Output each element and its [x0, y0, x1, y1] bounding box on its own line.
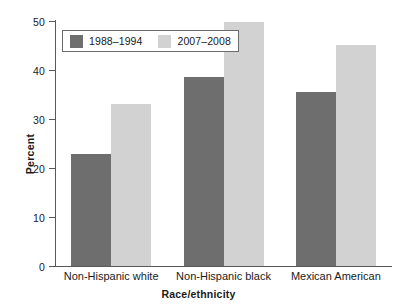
bar: [336, 45, 376, 266]
y-axis-tick-label: 40: [33, 65, 45, 77]
legend-label: 2007–2008: [177, 35, 230, 47]
y-axis-tick-label: 10: [33, 212, 45, 224]
bar-chart: Percent 01020304050 Non-Hispanic whiteNo…: [0, 0, 397, 307]
x-axis-category-label: Mexican American: [291, 270, 381, 282]
bar: [71, 154, 111, 266]
legend-label: 1988–1994: [89, 35, 142, 47]
plot-area: [55, 21, 392, 266]
y-axis-tick-label: 30: [33, 114, 45, 126]
y-axis-tick: 0: [49, 266, 55, 267]
x-axis-category-label: Non-Hispanic black: [176, 270, 271, 282]
y-axis-tick-label: 20: [33, 163, 45, 175]
bar: [184, 77, 224, 266]
x-axis-line: [55, 266, 392, 267]
y-axis-tick-label: 0: [39, 261, 45, 273]
legend-item: 1988–1994: [70, 35, 142, 48]
bar: [111, 104, 151, 266]
x-axis-title: Race/ethnicity: [0, 288, 397, 300]
legend-swatch: [158, 35, 171, 48]
legend-item: 2007–2008: [158, 35, 230, 48]
y-axis-tick-label: 50: [33, 16, 45, 28]
chart-legend: 1988–19942007–2008: [62, 30, 239, 52]
x-axis-category-label: Non-Hispanic white: [64, 270, 159, 282]
bar: [224, 22, 264, 266]
bar: [296, 92, 336, 266]
legend-swatch: [70, 35, 83, 48]
